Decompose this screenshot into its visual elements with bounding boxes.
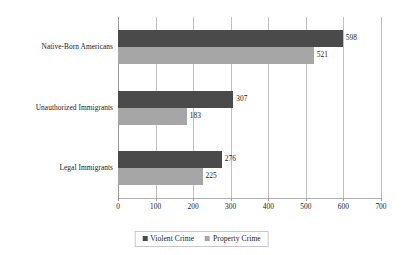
bar-property-crime-2 <box>118 168 203 185</box>
bar-value-label-property-crime-1: 183 <box>190 112 201 120</box>
x-tick-label-600: 600 <box>338 202 349 211</box>
bar-violent-crime-2 <box>118 151 222 168</box>
x-tick-label-200: 200 <box>188 202 199 211</box>
bar-value-label-property-crime-0: 521 <box>317 51 328 59</box>
bars-layer: 598521307183276225 <box>118 17 381 198</box>
x-tick-mark-0 <box>118 198 119 201</box>
x-tick-label-400: 400 <box>263 202 274 211</box>
x-tick-mark-500 <box>306 198 307 201</box>
x-tick-label-300: 300 <box>225 202 236 211</box>
bar-value-label-violent-crime-1: 307 <box>236 95 247 103</box>
bar-property-crime-0 <box>118 47 314 64</box>
x-tick-mark-400 <box>268 198 269 201</box>
chart-legend: Violent Crime Property Crime <box>134 231 269 247</box>
bar-property-crime-1 <box>118 108 187 125</box>
bar-value-label-violent-crime-0: 598 <box>346 34 357 42</box>
category-label-1: Unauthorized Immigrants <box>0 103 113 112</box>
bar-value-label-property-crime-2: 225 <box>206 172 217 180</box>
legend-label-violent-crime: Violent Crime <box>150 234 194 243</box>
plot-area: 598521307183276225 <box>118 17 381 198</box>
bar-chart: Native-Born Americans Unauthorized Immig… <box>0 0 403 255</box>
x-tick-mark-300 <box>231 198 232 201</box>
x-tick-label-0: 0 <box>116 202 120 211</box>
x-tick-label-700: 700 <box>375 202 386 211</box>
bar-violent-crime-1 <box>118 91 233 108</box>
bar-violent-crime-0 <box>118 30 343 47</box>
x-tick-label-100: 100 <box>150 202 161 211</box>
x-tick-mark-700 <box>381 198 382 201</box>
x-tick-mark-600 <box>343 198 344 201</box>
gridline-700 <box>381 17 382 198</box>
x-tick-mark-100 <box>156 198 157 201</box>
legend-label-property-crime: Property Crime <box>213 234 261 243</box>
category-axis: Native-Born Americans Unauthorized Immig… <box>0 17 117 198</box>
property-crime-swatch <box>205 236 210 241</box>
legend-item-property-crime: Property Crime <box>205 234 261 243</box>
bar-value-label-violent-crime-2: 276 <box>225 155 236 163</box>
category-label-2: Legal Immigrants <box>0 163 113 172</box>
x-tick-mark-200 <box>193 198 194 201</box>
x-tick-label-500: 500 <box>300 202 311 211</box>
legend-item-violent-crime: Violent Crime <box>142 234 194 243</box>
x-axis: 0100200300400500600700 <box>118 198 381 216</box>
violent-crime-swatch <box>142 236 147 241</box>
category-label-0: Native-Born Americans <box>0 42 113 51</box>
